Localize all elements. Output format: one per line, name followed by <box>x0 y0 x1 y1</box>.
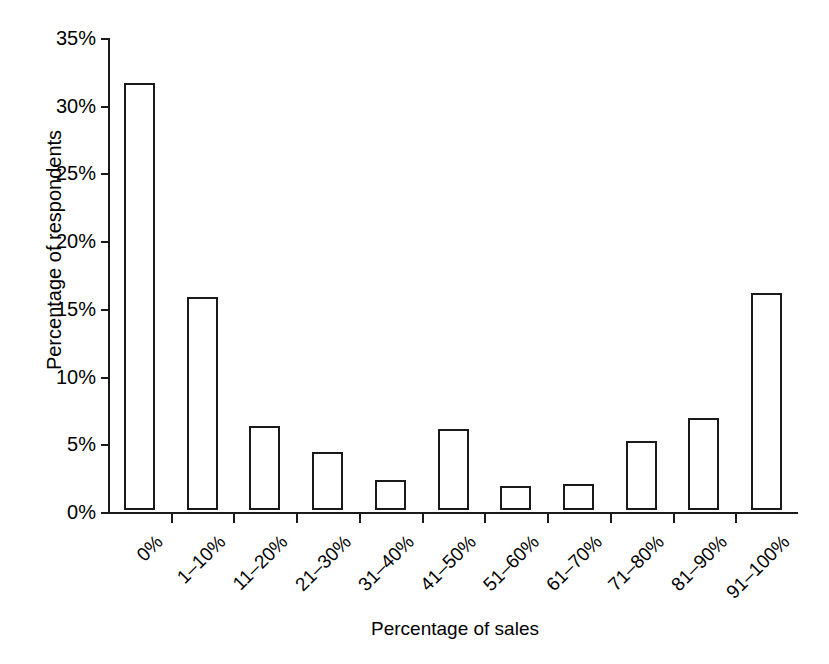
bar <box>688 418 719 510</box>
x-axis-tick <box>673 514 675 523</box>
y-axis-line <box>108 38 110 514</box>
bar <box>312 452 343 510</box>
y-axis-tick <box>101 512 109 514</box>
x-axis-tick-label: 61–70% <box>542 532 605 595</box>
y-axis-tick-label: 15% <box>4 299 96 319</box>
y-axis-tick-label: 10% <box>4 367 96 387</box>
y-axis-tick-label: 25% <box>4 163 96 183</box>
bar <box>500 486 531 510</box>
x-axis-tick-label: 71–80% <box>605 532 668 595</box>
x-axis-tick <box>484 514 486 523</box>
y-axis-tick-label: 5% <box>4 434 96 454</box>
bar <box>375 480 406 510</box>
y-axis-tick-label: 0% <box>4 502 96 522</box>
x-axis-tick <box>610 514 612 523</box>
bar <box>438 429 469 510</box>
bar <box>187 297 218 510</box>
y-axis-tick <box>101 377 109 379</box>
bar <box>626 441 657 510</box>
x-axis-tick-label: 21–30% <box>291 532 354 595</box>
y-axis-tick <box>101 38 109 40</box>
x-axis-tick <box>233 514 235 523</box>
plot-area: 0%5%10%15%20%25%30%35% 0%1–10%11–20%21–3… <box>108 38 798 512</box>
x-axis-tick-label: 41–50% <box>417 532 480 595</box>
x-axis-line <box>108 512 798 514</box>
x-axis-tick-label: 31–40% <box>354 532 417 595</box>
x-axis-tick-label: 1–10% <box>173 532 229 588</box>
x-axis-title: Percentage of sales <box>110 618 800 640</box>
bar <box>124 83 155 510</box>
y-axis-tick <box>101 106 109 108</box>
x-axis-tick <box>547 514 549 523</box>
y-axis-tick-label: 30% <box>4 96 96 116</box>
x-axis-tick <box>359 514 361 523</box>
x-axis-tick-label: 51–60% <box>480 532 543 595</box>
x-axis-tick-label: 0% <box>133 532 167 566</box>
y-axis-tick-label: 35% <box>4 28 96 48</box>
y-axis-tick <box>101 444 109 446</box>
x-axis-tick-label: 11–20% <box>230 532 292 594</box>
bar <box>563 484 594 510</box>
x-axis-tick <box>296 514 298 523</box>
x-axis-tick <box>735 514 737 523</box>
x-axis-tick <box>171 514 173 523</box>
x-axis-tick-label: 81–90% <box>668 532 731 595</box>
y-axis-tick <box>101 309 109 311</box>
x-axis-tick-label: 91–100% <box>723 532 794 603</box>
x-axis-tick <box>422 514 424 523</box>
bar <box>751 293 782 510</box>
bar <box>249 426 280 510</box>
bar-chart: Percentage of respondents 0%5%10%15%20%2… <box>0 0 829 664</box>
y-axis-tick <box>101 241 109 243</box>
y-axis-tick <box>101 173 109 175</box>
y-axis-tick-label: 20% <box>4 231 96 251</box>
